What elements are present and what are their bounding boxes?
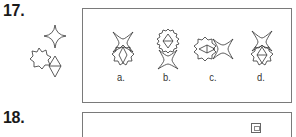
diamond-icon [163, 34, 173, 48]
option-a-label: a. [113, 71, 130, 83]
diamond-icon [119, 47, 127, 63]
octagon-star-icon [194, 37, 216, 61]
star-icon [213, 39, 233, 59]
option-d-label: d. [253, 71, 270, 83]
option-b-label: b. [159, 71, 176, 83]
question-number-18: 18. [3, 110, 24, 126]
option-d-figure[interactable] [249, 29, 275, 71]
diamond-icon [257, 47, 267, 63]
option-b-figure[interactable] [155, 28, 181, 70]
option-a-figure[interactable] [110, 30, 136, 70]
diamond-icon [49, 56, 61, 77]
question-17-prompt-figure [28, 22, 78, 87]
question-number-17: 17. [3, 3, 24, 19]
octagon-star-icon [112, 45, 134, 65]
eight-point-star-icon [30, 48, 51, 69]
square-figure-icon [251, 123, 261, 133]
four-point-star-icon [44, 25, 66, 48]
option-c-label: c. [205, 71, 222, 83]
option-c-figure[interactable] [193, 35, 235, 63]
